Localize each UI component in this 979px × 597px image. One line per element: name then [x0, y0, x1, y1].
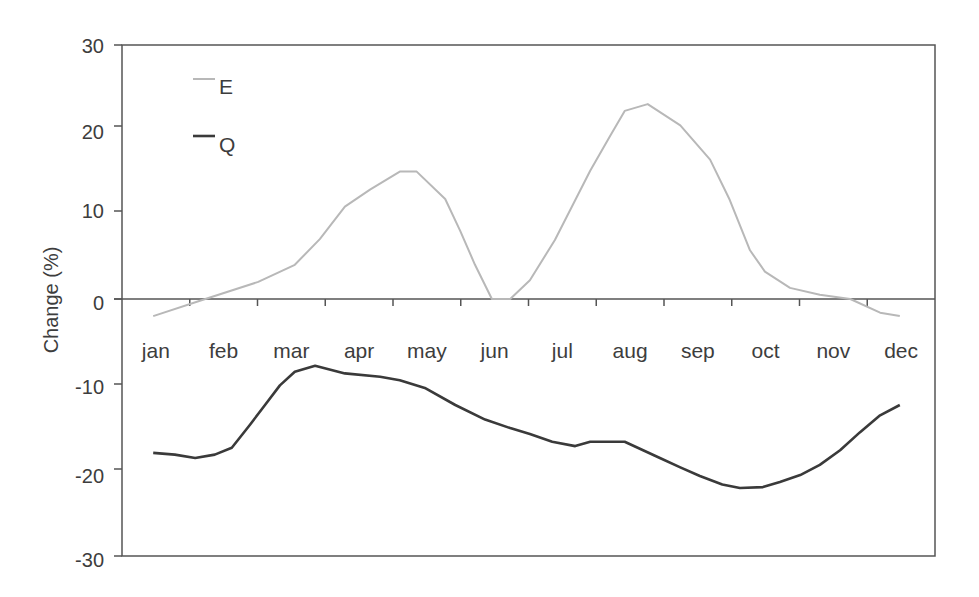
- x-tick-label-dec: dec: [884, 339, 918, 362]
- x-tick-label-may: may: [407, 339, 447, 362]
- y-axis: [114, 45, 122, 556]
- x-tick-label-jun: jun: [480, 339, 509, 362]
- x-tick-label-feb: feb: [209, 339, 238, 362]
- x-tick-label-sep: sep: [681, 339, 715, 362]
- y-tick-labels: 30 20 10 0 -10 -20 -30: [75, 35, 104, 571]
- series-line-e: [153, 104, 900, 316]
- x-tick-label-aug: aug: [613, 339, 648, 362]
- y-tick-label: 30: [82, 35, 104, 57]
- x-tick-label-nov: nov: [816, 339, 850, 362]
- x-tick-label-mar: mar: [273, 339, 309, 362]
- x-tick-label-apr: apr: [344, 339, 374, 362]
- legend: E Q: [193, 75, 235, 156]
- line-chart: 30 20 10 0 -10 -20 -30 Change (%) janfeb…: [0, 0, 979, 597]
- y-tick-label: -10: [75, 376, 104, 398]
- legend-item-q: Q: [193, 133, 235, 156]
- legend-label-q: Q: [219, 133, 235, 156]
- legend-label-e: E: [219, 75, 233, 98]
- series-line-q: [153, 366, 900, 488]
- y-tick-label: -30: [75, 549, 104, 571]
- legend-item-e: E: [193, 75, 233, 98]
- y-tick-label: 20: [82, 121, 104, 143]
- y-tick-label: 10: [82, 200, 104, 222]
- y-tick-label: -20: [75, 465, 104, 487]
- y-tick-label: 0: [93, 292, 104, 314]
- x-tick-labels: janfebmaraprmayjunjulaugsepoctnovdec: [141, 339, 918, 362]
- x-axis-zero-line: [114, 299, 935, 306]
- y-axis-title: Change (%): [40, 247, 62, 354]
- x-tick-label-oct: oct: [752, 339, 780, 362]
- x-tick-label-jan: jan: [141, 339, 170, 362]
- x-tick-label-jul: jul: [551, 339, 573, 362]
